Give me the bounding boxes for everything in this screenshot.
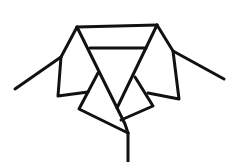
right-lapel-diagonal bbox=[117, 25, 157, 108]
collar-top-band bbox=[77, 25, 157, 27]
collar-strokes bbox=[15, 25, 224, 162]
left-lapel-diagonal bbox=[77, 27, 128, 133]
left-collar-flap bbox=[58, 57, 88, 96]
right-shoulder-line bbox=[157, 25, 224, 79]
left-shoulder-line bbox=[15, 27, 77, 89]
collar-drawing bbox=[0, 0, 236, 162]
right-collar-flap bbox=[148, 51, 179, 99]
right-lower-lapel bbox=[121, 77, 153, 120]
